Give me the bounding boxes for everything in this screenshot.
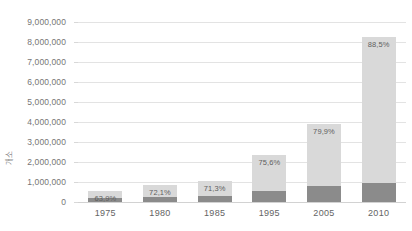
y-axis-tick-label: 4,000,000	[0, 118, 66, 127]
x-axis-category-label: 1975	[78, 208, 133, 218]
y-axis-tick-label: 8,000,000	[0, 38, 66, 47]
bar-column[interactable]: 88,5%	[362, 37, 396, 202]
bar-data-label: 71,3%	[198, 185, 232, 193]
chart-title	[0, 0, 412, 4]
bar-segment-lower[interactable]	[198, 196, 232, 202]
y-axis-tick-label: 2,000,000	[0, 158, 66, 167]
y-axis-tick	[74, 22, 78, 23]
x-axis-category-label: 1995	[242, 208, 297, 218]
plot-area: 9,000,0008,000,0007,000,0006,000,0005,00…	[78, 22, 406, 202]
y-axis-tick	[74, 122, 78, 123]
y-axis-tick-label: 3,000,000	[0, 138, 66, 147]
bar-segment-lower[interactable]	[143, 197, 177, 202]
bar-chart: 개소 9,000,0008,000,0007,000,0006,000,0005…	[0, 0, 412, 231]
y-axis-tick	[74, 142, 78, 143]
gridline	[78, 62, 406, 63]
gridline	[78, 202, 406, 203]
bar-column[interactable]: 75,6%	[252, 155, 286, 202]
bar-segment-lower[interactable]	[307, 186, 341, 202]
y-axis-tick	[74, 182, 78, 183]
bar-segment-lower[interactable]	[252, 191, 286, 202]
y-axis-tick	[74, 42, 78, 43]
y-axis-tick-label: 7,000,000	[0, 58, 66, 67]
y-axis-tick	[74, 82, 78, 83]
bar-column[interactable]: 79,9%	[307, 124, 341, 202]
bar-data-label: 63,9%	[88, 195, 122, 203]
bar-column[interactable]: 71,3%	[198, 181, 232, 202]
bar-column[interactable]: 72,1%	[143, 185, 177, 202]
gridline	[78, 122, 406, 123]
bar-data-label: 79,9%	[307, 128, 341, 136]
bar-data-label: 72,1%	[143, 189, 177, 197]
y-axis-tick	[74, 162, 78, 163]
y-axis-tick-label: 0	[0, 198, 66, 207]
gridline	[78, 142, 406, 143]
gridline	[78, 42, 406, 43]
x-axis-category-label: 1985	[187, 208, 242, 218]
y-axis-tick	[74, 202, 78, 203]
y-axis-tick-label: 9,000,000	[0, 18, 66, 27]
bar-column[interactable]: 63,9%	[88, 191, 122, 202]
gridline	[78, 22, 406, 23]
y-axis-tick	[74, 62, 78, 63]
gridline	[78, 182, 406, 183]
x-axis-category-label: 2005	[297, 208, 352, 218]
x-axis-category-label: 2010	[351, 208, 406, 218]
bar-data-label: 88,5%	[362, 41, 396, 49]
y-axis-tick-label: 5,000,000	[0, 98, 66, 107]
stacked-bar[interactable]	[362, 37, 396, 202]
x-axis-category-label: 1980	[133, 208, 188, 218]
bar-data-label: 75,6%	[252, 159, 286, 167]
y-axis-tick	[74, 102, 78, 103]
bar-segment-upper[interactable]	[362, 37, 396, 183]
y-axis-tick-label: 6,000,000	[0, 78, 66, 87]
y-axis-tick-label: 1,000,000	[0, 178, 66, 187]
gridline	[78, 102, 406, 103]
bar-segment-lower[interactable]	[362, 183, 396, 202]
gridline	[78, 162, 406, 163]
gridline	[78, 82, 406, 83]
